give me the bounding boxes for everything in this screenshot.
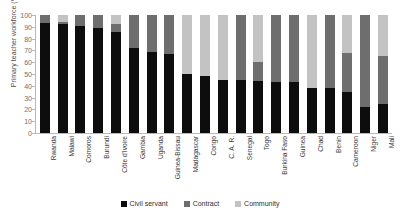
bar-slot (89, 15, 107, 133)
bar-segment-contract (342, 53, 352, 92)
y-axis-tick-label: 70 (10, 47, 32, 54)
legend-label: Community (244, 200, 279, 207)
bar-segment-community (58, 15, 68, 22)
category-slot: Congo (196, 136, 214, 188)
legend-label: Civil servant (130, 200, 168, 207)
x-axis-line (35, 133, 392, 134)
chart-legend: Civil servantContractCommunity (0, 200, 400, 207)
bar-segment-contract (129, 15, 139, 48)
category-slot: Cameroon (339, 136, 357, 188)
stacked-bar[interactable] (325, 15, 335, 133)
stacked-bar[interactable] (218, 15, 228, 133)
category-slot: Niger (356, 136, 374, 188)
bar-slot (54, 15, 72, 133)
bar-segment-civil-servant (307, 88, 317, 133)
bar-segment-contract (93, 15, 103, 28)
stacked-bar[interactable] (129, 15, 139, 133)
bar-slot (72, 15, 90, 133)
bar-segment-community (182, 15, 192, 74)
stacked-bar[interactable] (271, 15, 281, 133)
bar-slot (161, 15, 179, 133)
legend-item[interactable]: Civil servant (121, 200, 168, 207)
stacked-bar[interactable] (236, 15, 246, 133)
bar-slot (143, 15, 161, 133)
category-slot: Guinea (285, 136, 303, 188)
stacked-bar[interactable] (164, 15, 174, 133)
bar-segment-civil-servant (289, 82, 299, 133)
y-axis-tick-label: 30 (10, 94, 32, 101)
bar-segment-community (307, 15, 317, 88)
stacked-bar[interactable] (75, 15, 85, 133)
bar-slot (267, 15, 285, 133)
x-axis-tick-label: Mali (388, 136, 395, 148)
bar-slot (339, 15, 357, 133)
legend-label: Contract (193, 200, 219, 207)
bar-segment-civil-servant (75, 26, 85, 133)
stacked-bar[interactable] (289, 15, 299, 133)
bar-slot (107, 15, 125, 133)
stacked-bar[interactable] (182, 15, 192, 133)
bar-segment-community (342, 15, 352, 53)
category-slot: Côte d'Ivoire (107, 136, 125, 188)
bar-segment-civil-servant (218, 80, 228, 133)
category-slot: Comoros (72, 136, 90, 188)
bar-segment-community (378, 15, 388, 56)
bar-segment-community (218, 15, 228, 80)
category-slot: Togo (250, 136, 268, 188)
x-axis-category-labels: RwandaMalawiComorosBurundiCôte d'IvoireG… (36, 136, 392, 188)
category-slot: Gambia (125, 136, 143, 188)
y-axis-tick-label: 10 (10, 118, 32, 125)
bar-segment-contract (75, 15, 85, 26)
chart-root: Primary teacher workforce (%) 1009080706… (0, 0, 400, 211)
bar-segment-civil-servant (40, 23, 50, 133)
bar-slot (178, 15, 196, 133)
stacked-bar[interactable] (147, 15, 157, 133)
bar-segment-community (111, 15, 121, 24)
stacked-bar[interactable] (253, 15, 263, 133)
category-slot: Mali (374, 136, 392, 188)
stacked-bar[interactable] (93, 15, 103, 133)
y-axis-tick-label: 60 (10, 59, 32, 66)
bar-segment-civil-servant (58, 24, 68, 133)
bar-segment-contract (360, 15, 370, 107)
bar-segment-civil-servant (253, 81, 263, 133)
category-slot: Guinea-Bissau (161, 136, 179, 188)
bar-segment-civil-servant (182, 74, 192, 133)
category-slot: Rwanda (36, 136, 54, 188)
stacked-bar[interactable] (307, 15, 317, 133)
y-axis-tick-label: 50 (10, 71, 32, 78)
bar-segment-civil-servant (271, 82, 281, 133)
y-axis-tick-label: 90 (10, 23, 32, 30)
y-axis-tick-label: 0 (10, 130, 32, 137)
bar-segment-civil-servant (342, 92, 352, 133)
bar-segment-contract (253, 62, 263, 81)
category-slot: Chad (303, 136, 321, 188)
bar-segment-contract (271, 15, 281, 82)
bar-slot (214, 15, 232, 133)
stacked-bar[interactable] (40, 15, 50, 133)
bar-segment-contract (236, 15, 246, 80)
bar-segment-civil-servant (147, 52, 157, 133)
y-axis-tick-label: 100 (10, 12, 32, 19)
bar-slot (250, 15, 268, 133)
stacked-bar[interactable] (111, 15, 121, 133)
legend-item[interactable]: Contract (184, 200, 219, 207)
bar-segment-contract (40, 15, 50, 23)
stacked-bar[interactable] (360, 15, 370, 133)
bar-slot (125, 15, 143, 133)
category-slot: C. A. R. (214, 136, 232, 188)
bar-segment-contract (147, 15, 157, 52)
y-axis-tick-label: 40 (10, 82, 32, 89)
bar-segment-civil-servant (360, 107, 370, 133)
legend-item[interactable]: Community (235, 200, 279, 207)
stacked-bar[interactable] (378, 15, 388, 133)
legend-swatch-icon (235, 201, 241, 207)
stacked-bar[interactable] (58, 15, 68, 133)
bar-segment-contract (325, 15, 335, 88)
bar-segment-civil-servant (236, 80, 246, 133)
stacked-bar[interactable] (200, 15, 210, 133)
category-slot: Uganda (143, 136, 161, 188)
legend-swatch-icon (184, 201, 190, 207)
bar-slot (232, 15, 250, 133)
stacked-bar[interactable] (342, 15, 352, 133)
